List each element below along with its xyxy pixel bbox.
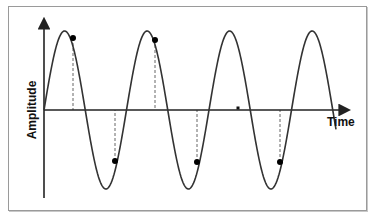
sample-point <box>152 37 158 43</box>
sample-point <box>277 159 283 165</box>
y-axis-label: Amplitude <box>25 80 39 139</box>
x-axis-label: Time <box>327 115 355 129</box>
sample-point <box>112 158 118 164</box>
sine-wave-diagram: Time Amplitude <box>0 0 370 214</box>
sample-point <box>194 159 200 165</box>
axis-marker <box>237 107 240 110</box>
sample-points <box>70 35 283 165</box>
sample-point <box>70 35 76 41</box>
